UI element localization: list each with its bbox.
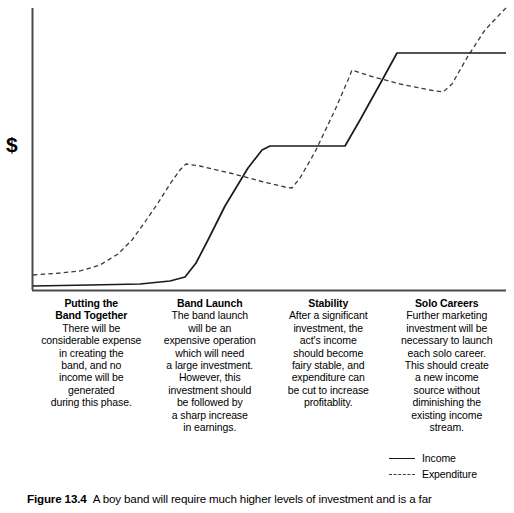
figure-caption-number: Figure 13.4 xyxy=(27,492,87,505)
phase-column-band-launch: Band Launch The band launch will be an e… xyxy=(151,297,270,433)
series-line-expenditure xyxy=(33,8,506,275)
figure-caption: Figure 13.4 A boy band will require much… xyxy=(27,491,507,506)
y-axis-label: $ xyxy=(6,134,18,155)
legend-swatch-dashed-icon xyxy=(389,469,415,479)
phase-body: The band launch will be an expensive ope… xyxy=(153,309,268,433)
legend-item-income: Income xyxy=(389,450,514,466)
phase-title: Solo Careers xyxy=(390,297,505,309)
chart-svg xyxy=(0,0,514,295)
chart-plot-area: $ xyxy=(0,0,514,295)
phase-columns: Putting the Band Together There will be … xyxy=(32,297,506,433)
phase-body: Further marketing investment will be nec… xyxy=(390,309,505,433)
phase-title: Band Launch xyxy=(153,297,268,309)
phase-title: Stability xyxy=(271,297,386,309)
figure-caption-text: A boy band will require much higher leve… xyxy=(93,492,432,505)
legend-swatch-solid-icon xyxy=(389,453,415,463)
phase-column-stability: Stability After a significant investment… xyxy=(269,297,388,409)
figure-container: $ Putting the Band Together There will b… xyxy=(0,0,514,513)
phase-column-putting-the-band-together: Putting the Band Together There will be … xyxy=(32,297,151,409)
chart-legend: Income Expenditure xyxy=(389,450,514,482)
phase-body: There will be considerable expense in cr… xyxy=(34,322,149,409)
legend-label: Income xyxy=(415,452,456,464)
phase-title: Putting the Band Together xyxy=(34,297,149,322)
series-line-income xyxy=(33,53,506,286)
legend-label: Expenditure xyxy=(415,468,477,480)
legend-item-expenditure: Expenditure xyxy=(389,466,514,482)
phase-column-solo-careers: Solo Careers Further marketing investmen… xyxy=(388,297,507,433)
phase-body: After a significant investment, the act'… xyxy=(271,309,386,408)
